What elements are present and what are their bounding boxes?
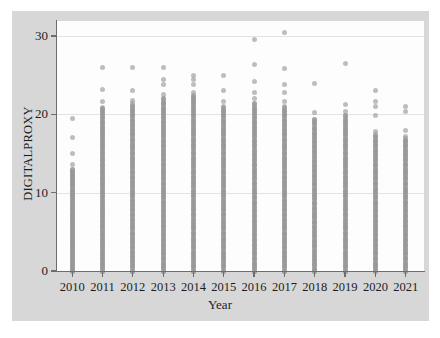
x-tick-2010 [72, 272, 73, 277]
x-tick-2019 [344, 272, 345, 277]
x-axis-title: Year [0, 297, 440, 313]
gridline-y-20 [57, 114, 424, 115]
x-tick-2018 [314, 272, 315, 277]
gridline-y-10 [57, 193, 424, 194]
x-tick-2011 [102, 272, 103, 277]
x-tick-2020 [375, 272, 376, 277]
y-tick-label-30: 30 [18, 29, 48, 42]
y-tick-10 [51, 192, 56, 193]
x-tick-2014 [193, 272, 194, 277]
plot-area [57, 21, 424, 271]
x-tick-label-2021: 2021 [386, 280, 426, 294]
x-tick-2017 [284, 272, 285, 277]
x-tick-2013 [163, 272, 164, 277]
scatter-plot-figure: 0102030 20102011201220132014201520162017… [0, 0, 440, 338]
x-tick-2015 [223, 272, 224, 277]
x-tick-2016 [253, 272, 254, 277]
x-axis-line [56, 271, 425, 272]
gridline-y-30 [57, 36, 424, 37]
y-tick-label-0: 0 [18, 264, 48, 277]
y-tick-30 [51, 35, 56, 36]
y-axis-title: DIGITALPROXY [21, 74, 36, 234]
y-tick-20 [51, 114, 56, 115]
y-tick-0 [51, 270, 56, 271]
y-axis-line [56, 20, 57, 272]
x-tick-2021 [405, 272, 406, 277]
x-tick-2012 [132, 272, 133, 277]
